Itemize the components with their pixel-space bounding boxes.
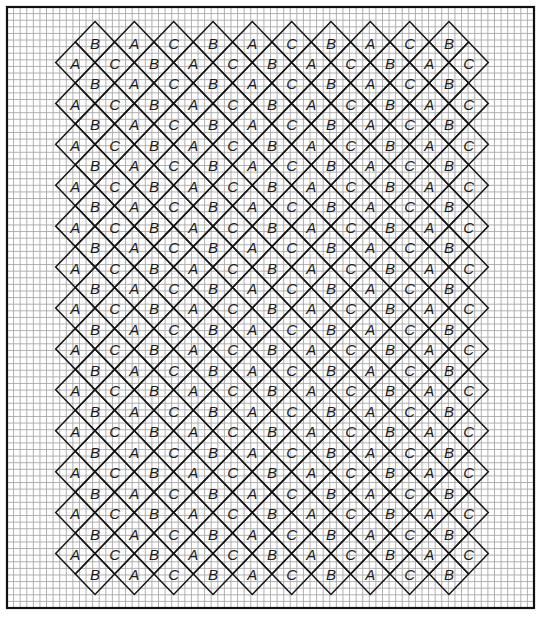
block-label-b: B (149, 505, 159, 522)
block-label-c: C (109, 55, 120, 72)
block-label-b: B (90, 526, 100, 543)
block-label-b: B (208, 526, 218, 543)
block-label-c: C (463, 219, 474, 236)
block-label-a: A (423, 341, 434, 358)
block-label-b: B (90, 75, 100, 92)
block-label-a: A (69, 382, 80, 399)
block-label-c: C (463, 505, 474, 522)
block-label-b: B (326, 444, 336, 461)
block-label-c: C (227, 55, 238, 72)
block-label-a: A (128, 35, 139, 52)
block-label-c: C (404, 198, 415, 215)
block-label-a: A (69, 505, 80, 522)
block-label-b: B (267, 55, 277, 72)
block-label-c: C (168, 35, 179, 52)
block-label-b: B (267, 260, 277, 277)
block-label-a: A (69, 260, 80, 277)
block-label-c: C (286, 444, 297, 461)
block-label-b: B (149, 260, 159, 277)
block-label-b: B (149, 219, 159, 236)
block-label-a: A (364, 526, 375, 543)
block-label-c: C (109, 382, 120, 399)
block-label-a: A (305, 300, 316, 317)
block-label-a: A (423, 546, 434, 563)
block-label-b: B (90, 198, 100, 215)
block-label-c: C (463, 546, 474, 563)
block-label-a: A (187, 137, 198, 154)
block-label-c: C (227, 464, 238, 481)
block-label-b: B (267, 178, 277, 195)
block-label-b: B (326, 485, 336, 502)
block-label-a: A (246, 116, 257, 133)
block-label-b: B (149, 464, 159, 481)
block-label-c: C (404, 362, 415, 379)
block-label-b: B (385, 55, 395, 72)
block-label-a: A (246, 198, 257, 215)
block-label-a: A (246, 485, 257, 502)
quilt-diagram: BACBACBACBBACBACBACBBACBACBACBBACBACBACB… (0, 0, 542, 621)
block-label-c: C (286, 239, 297, 256)
block-label-c: C (109, 464, 120, 481)
block-label-a: A (128, 239, 139, 256)
block-label-b: B (208, 321, 218, 338)
block-label-a: A (423, 96, 434, 113)
block-label-a: A (246, 280, 257, 297)
block-label-a: A (128, 116, 139, 133)
block-label-b: B (90, 362, 100, 379)
block-label-b: B (444, 485, 454, 502)
block-label-b: B (90, 35, 100, 52)
block-label-c: C (404, 116, 415, 133)
block-label-a: A (128, 485, 139, 502)
block-label-a: A (187, 423, 198, 440)
block-label-c: C (109, 137, 120, 154)
block-label-c: C (404, 35, 415, 52)
block-label-c: C (109, 300, 120, 317)
block-label-a: A (305, 423, 316, 440)
block-label-a: A (305, 219, 316, 236)
block-label-c: C (286, 485, 297, 502)
block-label-b: B (208, 239, 218, 256)
block-label-a: A (128, 157, 139, 174)
block-label-b: B (90, 403, 100, 420)
block-label-c: C (463, 341, 474, 358)
block-label-b: B (444, 566, 454, 583)
block-label-b: B (267, 505, 277, 522)
block-label-b: B (149, 341, 159, 358)
block-label-b: B (267, 300, 277, 317)
block-label-b: B (90, 444, 100, 461)
block-label-c: C (345, 423, 356, 440)
block-label-b: B (326, 526, 336, 543)
block-label-b: B (90, 239, 100, 256)
block-label-a: A (305, 55, 316, 72)
block-label-a: A (69, 178, 80, 195)
block-label-b: B (444, 403, 454, 420)
block-label-c: C (168, 444, 179, 461)
block-label-c: C (463, 178, 474, 195)
block-label-c: C (286, 526, 297, 543)
block-label-b: B (326, 280, 336, 297)
block-label-c: C (404, 526, 415, 543)
block-label-c: C (345, 464, 356, 481)
block-label-c: C (404, 403, 415, 420)
block-label-c: C (404, 157, 415, 174)
block-label-c: C (109, 423, 120, 440)
block-label-a: A (69, 341, 80, 358)
block-label-a: A (69, 55, 80, 72)
block-label-c: C (345, 55, 356, 72)
block-label-a: A (187, 300, 198, 317)
block-label-a: A (69, 137, 80, 154)
block-label-c: C (463, 55, 474, 72)
block-label-b: B (444, 526, 454, 543)
block-label-b: B (149, 96, 159, 113)
block-label-c: C (404, 566, 415, 583)
block-label-a: A (364, 75, 375, 92)
block-label-b: B (385, 341, 395, 358)
block-label-b: B (385, 382, 395, 399)
block-label-b: B (326, 566, 336, 583)
block-label-b: B (90, 566, 100, 583)
block-label-c: C (168, 116, 179, 133)
block-label-a: A (423, 178, 434, 195)
block-label-a: A (69, 464, 80, 481)
block-label-a: A (305, 178, 316, 195)
block-label-a: A (187, 546, 198, 563)
